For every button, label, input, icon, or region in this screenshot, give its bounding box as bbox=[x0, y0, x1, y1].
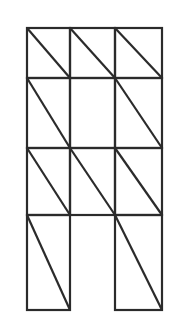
figure-canvas bbox=[0, 0, 184, 333]
diagonal-grid-figure bbox=[0, 0, 184, 333]
